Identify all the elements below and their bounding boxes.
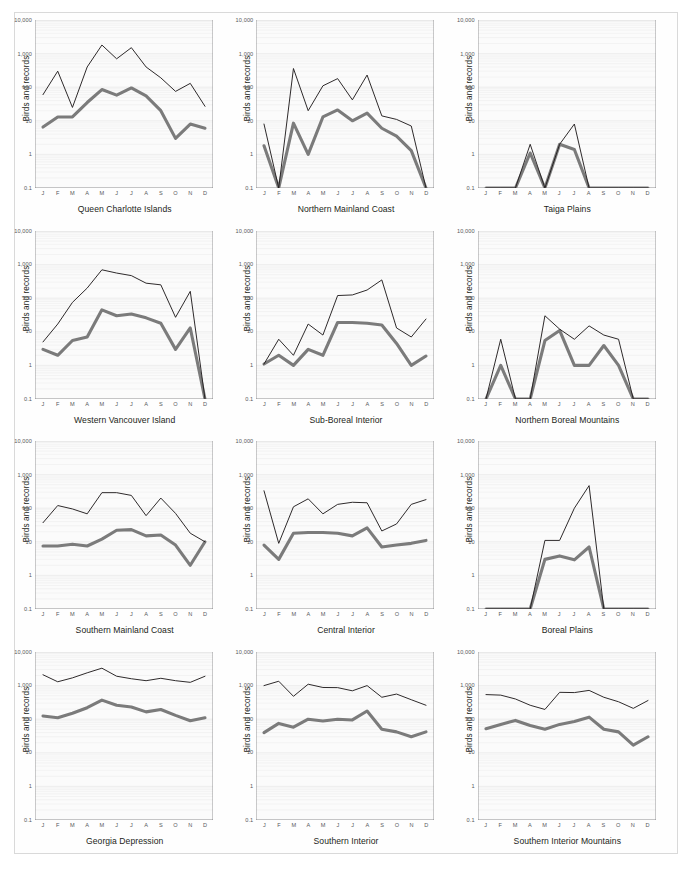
x-tick-label: A: [365, 822, 369, 828]
x-tick-label: M: [70, 822, 75, 828]
x-tick-label: J: [351, 822, 354, 828]
chart-panel: Birds and records0.11101001,00010,000JFM…: [235, 433, 456, 644]
x-tick-label: N: [188, 190, 192, 196]
chart-title: Boreal Plains: [457, 625, 678, 635]
x-tick-label: O: [173, 611, 177, 617]
chart-panel: Birds and records0.11101001,00010,000JFM…: [457, 433, 678, 644]
y-tick-label: 1: [250, 783, 253, 789]
chart-title: Southern Interior Mountains: [457, 836, 678, 846]
x-tick-label: O: [616, 190, 620, 196]
x-tick-label: N: [631, 190, 635, 196]
chart-panel: Birds and records0.11101001,00010,000JFM…: [457, 644, 678, 855]
x-tick-label: J: [351, 190, 354, 196]
y-tick-label: 10,000: [14, 228, 32, 234]
y-tick-label: 1: [29, 783, 32, 789]
x-tick-label: J: [573, 401, 576, 407]
y-tick-label: 100: [465, 716, 475, 722]
x-tick-label: N: [410, 611, 414, 617]
plot-area: 0.11101001,00010,000JFMAMJJASOND: [478, 231, 656, 399]
x-tick-label: A: [365, 401, 369, 407]
x-tick-label: M: [291, 822, 296, 828]
y-tick-label: 10: [468, 118, 474, 124]
chart-panel-inner: Birds and records0.11101001,00010,000JFM…: [235, 433, 456, 644]
y-tick-label: 10: [468, 539, 474, 545]
x-tick-label: S: [159, 611, 163, 617]
x-tick-label: J: [558, 611, 561, 617]
x-tick-label: O: [395, 822, 399, 828]
x-tick-label: S: [380, 401, 384, 407]
y-tick-label: 100: [22, 295, 32, 301]
y-tick-label: 10: [247, 749, 253, 755]
x-tick-label: F: [499, 190, 503, 196]
y-tick-label: 1: [29, 362, 32, 368]
x-tick-label: D: [424, 611, 428, 617]
x-tick-label: J: [337, 822, 340, 828]
y-tick-label: 1: [250, 572, 253, 578]
y-tick-label: 1,000: [239, 51, 254, 57]
x-tick-label: A: [85, 611, 89, 617]
y-tick-label: 1,000: [18, 261, 33, 267]
x-tick-label: O: [616, 401, 620, 407]
y-tick-label: 1,000: [460, 682, 475, 688]
x-tick-label: M: [513, 611, 518, 617]
chart-panel: Birds and records0.11101001,00010,000JFM…: [235, 644, 456, 855]
chart-title: Western Vancouver Island: [14, 415, 235, 425]
plot-area: 0.11101001,00010,000JFMAMJJASOND: [256, 652, 434, 820]
y-tick-label: 10,000: [14, 438, 32, 444]
y-tick-label: 10: [247, 539, 253, 545]
x-tick-label: J: [42, 190, 45, 196]
x-tick-label: A: [307, 401, 311, 407]
y-tick-label: 10,000: [457, 438, 475, 444]
x-tick-label: N: [410, 190, 414, 196]
chart-panel: Birds and records0.11101001,00010,000JFM…: [14, 433, 235, 644]
x-tick-label: M: [321, 611, 326, 617]
y-tick-label: 1,000: [239, 472, 254, 478]
x-tick-label: J: [351, 611, 354, 617]
y-tick-label: 0.1: [467, 606, 475, 612]
x-tick-label: S: [159, 822, 163, 828]
y-tick-label: 0.1: [24, 817, 32, 823]
x-tick-label: O: [616, 822, 620, 828]
x-tick-label: A: [307, 190, 311, 196]
x-tick-label: S: [602, 401, 606, 407]
y-tick-label: 1: [471, 151, 474, 157]
x-tick-label: D: [646, 611, 650, 617]
plot-area: 0.11101001,00010,000JFMAMJJASOND: [256, 20, 434, 188]
x-tick-label: O: [395, 611, 399, 617]
y-tick-label: 0.1: [24, 396, 32, 402]
x-tick-label: A: [528, 401, 532, 407]
x-tick-label: J: [337, 401, 340, 407]
y-tick-label: 10,000: [457, 17, 475, 23]
y-tick-label: 100: [22, 716, 32, 722]
y-tick-label: 100: [465, 84, 475, 90]
x-tick-label: A: [587, 190, 591, 196]
x-tick-label: D: [203, 190, 207, 196]
x-tick-label: O: [616, 611, 620, 617]
x-tick-label: O: [173, 190, 177, 196]
x-tick-label: D: [203, 611, 207, 617]
x-tick-label: O: [395, 401, 399, 407]
y-tick-label: 10: [26, 539, 32, 545]
x-tick-label: J: [558, 190, 561, 196]
x-tick-label: M: [321, 822, 326, 828]
x-tick-label: F: [277, 611, 281, 617]
plot-area: 0.11101001,00010,000JFMAMJJASOND: [478, 20, 656, 188]
figure-page: Birds and records0.11101001,00010,000JFM…: [0, 0, 692, 872]
x-tick-label: F: [56, 401, 60, 407]
x-tick-label: A: [144, 611, 148, 617]
y-tick-label: 10,000: [236, 228, 254, 234]
x-tick-label: A: [144, 190, 148, 196]
x-tick-label: D: [424, 190, 428, 196]
chart-panel-inner: Birds and records0.11101001,00010,000JFM…: [14, 433, 235, 644]
x-tick-label: S: [380, 190, 384, 196]
y-tick-label: 10,000: [236, 17, 254, 23]
plot-area: 0.11101001,00010,000JFMAMJJASOND: [478, 441, 656, 609]
x-tick-label: M: [291, 611, 296, 617]
x-tick-label: F: [277, 401, 281, 407]
chart-panel: Birds and records0.11101001,00010,000JFM…: [14, 644, 235, 855]
x-tick-label: J: [484, 822, 487, 828]
y-tick-label: 1: [29, 572, 32, 578]
x-tick-label: J: [115, 611, 118, 617]
x-tick-label: J: [558, 401, 561, 407]
y-tick-label: 1: [471, 783, 474, 789]
